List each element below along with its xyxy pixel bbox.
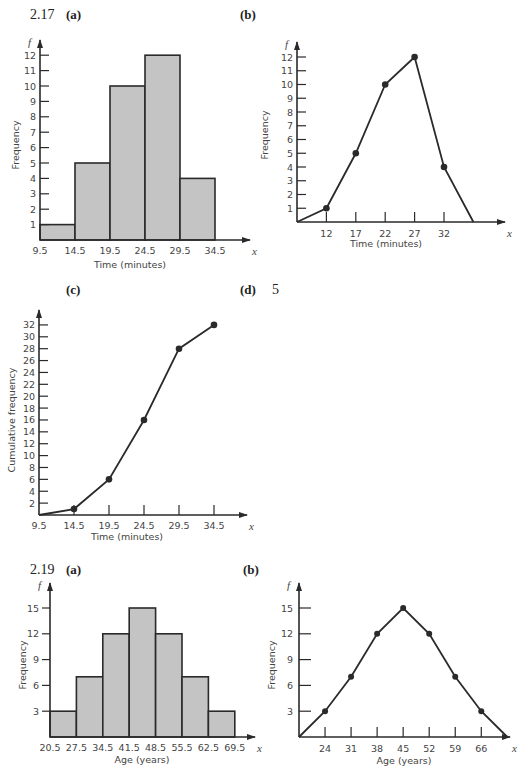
histogram-bar [103,634,129,737]
data-point [348,674,354,680]
y-axis-arrow-icon [37,39,43,48]
data-point [426,631,432,637]
histogram-bar [50,711,76,737]
y-tick-label: 6 [287,134,293,145]
histogram-bar [76,677,102,737]
chart-217a-histogram: fx1234567891011129.514.519.524.529.534.5… [10,36,257,270]
panel-label-217c: (c) [66,282,80,297]
y-axis-title: Frequency [10,120,21,169]
data-point [478,708,484,714]
data-point [176,345,183,352]
x-tick-label: 66 [475,743,487,754]
y-tick-label: 3 [287,706,293,717]
y-tick-label: 8 [287,107,293,118]
y-axis-title: Frequency [17,640,28,689]
x-axis-title: Age (years) [377,755,432,766]
x-tick-label: 24.5 [133,520,154,531]
x-tick-label: 48.5 [145,742,166,753]
y-tick-label: 5 [287,148,293,159]
histogram-bar [145,55,180,240]
y-tick-label: 6 [29,474,35,485]
y-tick-label: 1 [287,203,293,214]
data-point [106,476,113,483]
x-tick-label: 31 [345,743,357,754]
y-tick-label: 8 [29,462,35,473]
x-tick-label: 52 [423,743,435,754]
x-tick-label: 34.5 [203,520,224,531]
data-point [382,81,389,88]
y-axis-arrow-icon [47,582,53,591]
y-tick-label: 9 [287,654,293,665]
x-tick-label: 27.5 [66,742,87,753]
y-tick-label: 5 [30,158,36,169]
y-tick-label: 6 [33,680,39,691]
y-tick-label: 7 [30,127,36,138]
x-tick-label: 14.5 [63,520,84,531]
x-axis-arrow-icon [242,237,251,243]
x-tick-label: 24 [319,743,331,754]
y-tick-label: 30 [23,331,35,342]
x-axis-title: Time (minutes) [349,238,422,249]
x-tick-label: 69.5 [224,742,245,753]
x-tick-label: 41.5 [119,742,140,753]
x-tick-label: 32 [438,228,450,239]
chart-217c-ogive: x24681012141618202224262830329.514.519.5… [6,309,254,542]
x-tick-label: 59 [449,743,461,754]
x-axis-arrow-icon [239,512,248,518]
x-axis-symbol: x [511,742,517,754]
y-tick-label: 3 [30,188,36,199]
panel-label-219a: (a) [66,562,81,577]
x-tick-label: 45 [397,743,409,754]
chart-217b-frequency-polygon: fx1234567891011121217222732Time (minutes… [259,38,512,249]
y-tick-label: 10 [24,81,36,92]
x-axis-symbol: x [506,227,512,239]
y-axis-arrow-icon [36,309,42,318]
data-point [374,631,380,637]
panel-label-217d: (d) [240,282,256,297]
data-point [411,54,418,61]
y-tick-label: 7 [287,120,293,131]
x-tick-label: 24.5 [134,245,155,256]
figure-canvas: 2.17 (a) (b) (c) (d) 5 2.19 (a) (b) fx12… [0,0,522,769]
data-point [71,506,78,513]
x-axis-symbol: x [256,742,262,754]
exercise-label-219: 2.19 [30,562,55,577]
x-tick-label: 29.5 [168,520,189,531]
x-axis-symbol: x [248,520,254,532]
y-tick-label: 15 [27,603,39,614]
y-tick-label: 26 [23,355,35,366]
x-tick-label: 20.5 [39,742,60,753]
y-axis-title: Cumulative frequency [6,367,17,472]
y-tick-label: 22 [23,379,35,390]
x-tick-label: 14.5 [64,245,85,256]
data-point [322,708,328,714]
frequency-polygon-line [299,608,507,737]
y-tick-label: 9 [287,93,293,104]
x-tick-label: 12 [320,228,332,239]
chart-219b-frequency-polygon: fx369121524313845525966Age (years)Freque… [266,579,517,766]
y-tick-label: 24 [23,367,35,378]
y-tick-label: 20 [23,391,35,402]
x-axis-arrow-icon [247,734,256,740]
y-tick-label: 6 [30,142,36,153]
y-tick-label: 14 [23,426,35,437]
x-tick-label: 9.5 [31,520,46,531]
y-axis-arrow-icon [296,582,302,591]
y-tick-label: 3 [33,706,39,717]
data-point [211,322,218,329]
y-axis-title: Frequency [259,110,270,159]
panel-label-219b: (b) [243,562,259,577]
y-axis-symbol: f [28,36,33,48]
histogram-bar [180,178,215,240]
y-tick-label: 2 [29,498,35,509]
x-tick-label: 62.5 [198,742,219,753]
x-tick-label: 34.5 [92,742,113,753]
x-tick-label: 19.5 [98,520,119,531]
x-axis-title: Time (minutes) [93,259,166,270]
y-tick-label: 11 [24,65,36,76]
y-axis-symbol: f [38,579,43,591]
y-tick-label: 12 [27,628,39,639]
y-tick-label: 4 [30,173,36,184]
histogram-bar [75,163,110,240]
panel-d-value: 5 [272,282,279,297]
